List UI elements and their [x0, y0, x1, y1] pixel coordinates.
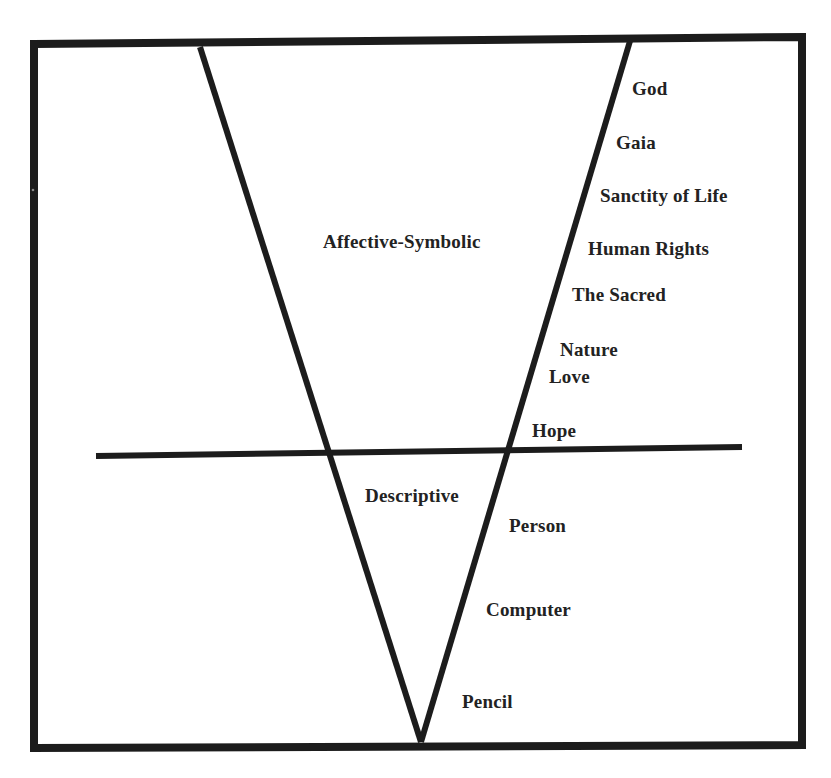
divider-line: [96, 447, 742, 456]
v-right-line: [421, 41, 630, 742]
scale-item-nature: Nature: [560, 340, 618, 359]
scale-item-the-sacred: The Sacred: [572, 285, 666, 304]
scale-item-gaia: Gaia: [616, 133, 656, 152]
diagram-canvas: [0, 0, 831, 778]
region-label-affective-symbolic: Affective-Symbolic: [323, 232, 481, 251]
scale-item-hope: Hope: [532, 421, 576, 440]
scale-item-person: Person: [509, 516, 566, 535]
scale-item-sanctity-of-life: Sanctity of Life: [600, 186, 728, 205]
scale-item-love: Love: [549, 367, 590, 386]
v-left-line: [200, 47, 421, 742]
region-label-descriptive: Descriptive: [365, 486, 459, 505]
scale-item-god: God: [632, 79, 667, 98]
scale-item-computer: Computer: [486, 600, 571, 619]
scale-item-human-rights: Human Rights: [588, 239, 709, 258]
outer-frame: [34, 37, 802, 748]
scale-item-pencil: Pencil: [462, 692, 513, 711]
scan-speck: [32, 189, 35, 192]
